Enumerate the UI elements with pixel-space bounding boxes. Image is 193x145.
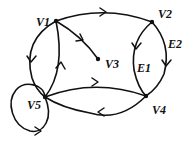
label-v3: V3 (105, 58, 119, 70)
edge-v2-v4-e2 (146, 22, 166, 96)
edge-v2-v4-e1 (133, 22, 152, 96)
node-v2 (150, 20, 154, 24)
arrow-v1-v5-icon (27, 56, 36, 62)
node-v3 (96, 57, 100, 61)
node-v4 (144, 94, 148, 98)
node-v1 (54, 19, 58, 23)
label-e1: E1 (137, 62, 151, 74)
edge-v1-v3 (56, 21, 98, 59)
label-v4: V4 (152, 104, 166, 116)
edge-v4-v5 (45, 96, 146, 115)
label-v5: V5 (27, 99, 41, 111)
node-v5 (43, 95, 47, 99)
directed-graph (0, 0, 193, 145)
label-e2: E2 (168, 38, 182, 50)
arrow-v5-v4-icon (92, 78, 98, 86)
label-v2: V2 (158, 8, 172, 20)
edge-v5-v1 (45, 21, 59, 97)
edge-v5-v4 (45, 87, 146, 97)
label-v1: V1 (36, 16, 50, 28)
